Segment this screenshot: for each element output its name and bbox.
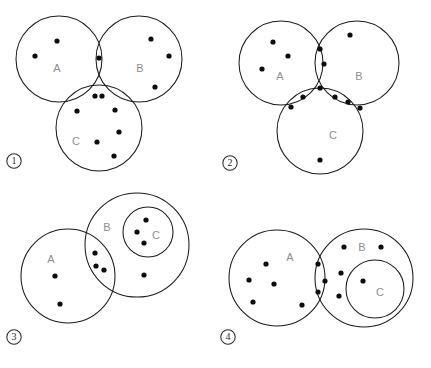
panel-4-dot-A-only <box>246 277 251 282</box>
panel-2-dot-C-only <box>317 157 322 162</box>
panel-4-dot-B-only <box>336 293 341 298</box>
venn-diagram-figure: ABC1ABC2ABC3ABC4 <box>0 0 431 368</box>
panel-4-dot-B-only <box>378 244 383 249</box>
panel-4-dot-A-only <box>263 261 268 266</box>
panel-1-dot-B-only <box>166 53 171 58</box>
panel-2-dot-A-only <box>285 53 290 58</box>
panel-4-dot-A-only <box>250 299 255 304</box>
panel-1-dot-A-only <box>32 53 37 58</box>
panel-2-label-a: A <box>276 70 284 82</box>
panel-2-dot-B-and-C <box>357 105 362 110</box>
panel-1-dot-B-and-C <box>112 107 117 112</box>
panel-3-dot-C <box>134 229 139 234</box>
panel-1-label-a: A <box>53 62 61 74</box>
panel-1-number-text: 1 <box>12 155 17 166</box>
panel-4-dot-A-and-B <box>315 261 320 266</box>
panel-1-label-b: B <box>136 62 143 74</box>
panel-3-label-a: A <box>47 253 55 265</box>
panel-4-label-a: A <box>286 251 294 263</box>
panel-3-dot-C <box>143 217 148 222</box>
panel-2-dot-A-and-B <box>321 61 326 66</box>
panel-3-dot-A-and-B <box>93 263 98 268</box>
panel-2-number-text: 2 <box>228 157 233 168</box>
panel-4-label-c: C <box>376 286 384 298</box>
panel-2-dot-B-and-C <box>345 99 350 104</box>
panel-2-dot-B-and-C <box>332 94 337 99</box>
panel-1-dot-A-and-B <box>96 55 101 60</box>
panel-4-dot-A-and-B <box>315 289 320 294</box>
panel-2-dot-A-and-B <box>317 46 322 51</box>
panel-4-dot-C <box>360 278 365 283</box>
panel-3-label-c: C <box>152 229 160 241</box>
panel-1-dot-C-only <box>116 129 121 134</box>
venn-figure-container: ABC1ABC2ABC3ABC4 <box>0 0 431 368</box>
panel-4-number-text: 4 <box>226 331 231 342</box>
panel-4-dot-A-only <box>271 281 276 286</box>
panel-2-label-c: C <box>329 129 337 141</box>
panel-2-dot-A-only <box>270 39 275 44</box>
panel-4-label-b: B <box>358 241 365 253</box>
panel-2-dot-A-and-C <box>300 94 305 99</box>
panel-2-dot-A-and-B-and-C <box>317 85 322 90</box>
panel-1-label-c: C <box>72 135 80 147</box>
panel-4-dot-A-only <box>299 302 304 307</box>
panel-1-dot-B-only <box>152 84 157 89</box>
panel-4-dot-B-only <box>341 244 346 249</box>
panel-1-dot-C-only <box>94 139 99 144</box>
panel-3-dot-B-only <box>141 272 146 277</box>
panel-1-dot-A-and-B-and-C <box>92 93 97 98</box>
panel-3-label-b: B <box>103 221 110 233</box>
panel-3-number-text: 3 <box>12 331 17 342</box>
panel-3-dot-A-and-B <box>101 267 106 272</box>
panel-2-dot-A-only <box>259 66 264 71</box>
panel-3-dot-C <box>141 240 146 245</box>
panel-1-dot-C-only <box>111 153 116 158</box>
panel-3-dot-A-only <box>57 301 62 306</box>
panel-1-dot-A-and-C <box>74 108 79 113</box>
panel-4-dot-B-only <box>338 270 343 275</box>
panel-4-dot-A-and-B <box>322 278 327 283</box>
panel-2-dot-A-and-C <box>288 104 293 109</box>
panel-3-dot-A-and-B <box>92 250 97 255</box>
figure-background <box>0 0 431 368</box>
panel-2-label-b: B <box>355 70 362 82</box>
panel-1-dot-A-and-B-and-C <box>99 93 104 98</box>
panel-3-dot-A-only <box>52 273 57 278</box>
panel-1-dot-A-only <box>54 38 59 43</box>
panel-1-dot-B-only <box>148 36 153 41</box>
panel-2-dot-B-only <box>347 32 352 37</box>
